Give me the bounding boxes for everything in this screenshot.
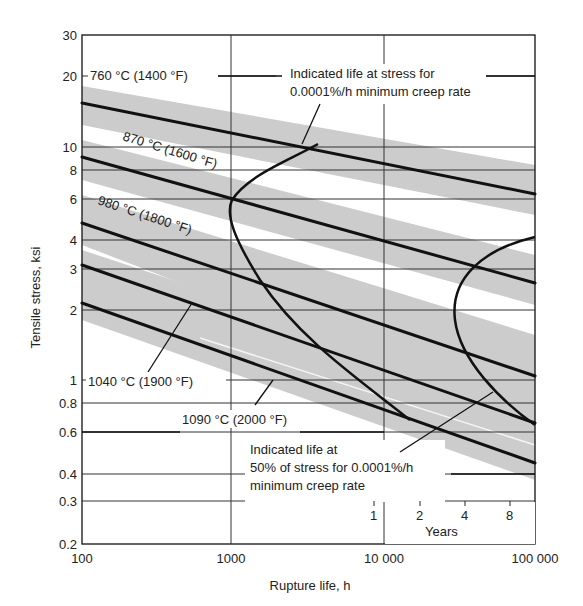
label-1040: 1040 °C (1900 °F) — [88, 374, 193, 389]
x-axis-ticks: 100 1000 10 000 100 000 — [71, 551, 558, 566]
x-axis-label: Rupture life, h — [230, 578, 390, 593]
years-tick-4: 4 — [461, 508, 468, 523]
annotation-2-line2: 50% of stress for 0.0001%/h — [250, 460, 413, 475]
years-tick-2: 2 — [416, 508, 423, 523]
years-tick-8: 8 — [506, 508, 513, 523]
creep-rupture-chart: 760 °C (1400 °F) 870 °C (1600 °F) 980 °C… — [0, 0, 583, 606]
annotation-2-line1: Indicated life at — [250, 442, 338, 457]
svg-text:1: 1 — [70, 373, 77, 388]
svg-text:0.3: 0.3 — [59, 494, 77, 509]
svg-text:0.2: 0.2 — [59, 537, 77, 552]
svg-text:0.4: 0.4 — [59, 467, 77, 482]
svg-text:1000: 1000 — [217, 551, 246, 566]
years-tick-1: 1 — [370, 508, 377, 523]
svg-text:0.8: 0.8 — [59, 396, 77, 411]
svg-text:8: 8 — [70, 163, 77, 178]
annotation-2-line3: minimum creep rate — [250, 478, 365, 493]
y-axis-label: Tensile stress, ksi — [28, 223, 43, 373]
annotation-1-line1: Indicated life at stress for — [290, 66, 435, 81]
label-760: 760 °C (1400 °F) — [90, 68, 188, 83]
years-label: Years — [425, 524, 458, 539]
svg-text:10 000: 10 000 — [364, 551, 404, 566]
svg-text:100: 100 — [71, 551, 93, 566]
svg-text:3: 3 — [70, 262, 77, 277]
y-axis-ticks: 30 20 10 8 6 4 3 2 1 0.8 0.6 0.4 0.3 0.2 — [59, 28, 77, 552]
svg-text:4: 4 — [70, 233, 77, 248]
svg-text:2: 2 — [70, 303, 77, 318]
label-1090: 1090 °C (2000 °F) — [182, 412, 287, 427]
svg-text:10: 10 — [63, 140, 77, 155]
svg-text:100 000: 100 000 — [512, 551, 559, 566]
svg-text:0.6: 0.6 — [59, 425, 77, 440]
svg-text:20: 20 — [63, 69, 77, 84]
svg-text:30: 30 — [63, 28, 77, 43]
svg-text:6: 6 — [70, 192, 77, 207]
annotation-1-line2: 0.0001%/h minimum creep rate — [290, 84, 471, 99]
